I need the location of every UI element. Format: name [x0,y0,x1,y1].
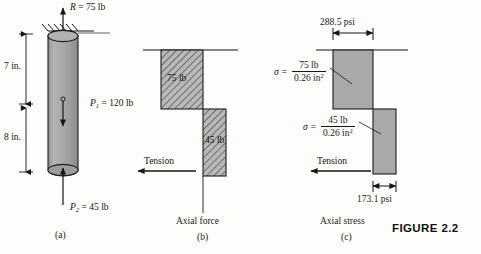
panel-a-caption: (a) [55,230,66,240]
panel-b-graphics [138,50,238,213]
panel-c-graphics [311,28,408,192]
sigma-upper-denominator: 0.26 in2 [292,71,326,84]
axial-stress-block-upper [333,50,373,109]
sigma-lower-numerator: 45 lb [321,115,355,126]
sigma-lower-equals: σ = [303,122,316,132]
reaction-label-R: R = 75 lb [70,3,105,13]
sigma-lower-denominator: 0.26 in2 [321,126,355,139]
sigma-upper-fraction: 75 lb 0.26 in2 [292,60,326,83]
panel-c-axis-label: Axial stress [320,216,365,226]
figure-title: FIGURE 2.2 [392,222,459,234]
axial-stress-block-lower [373,109,396,174]
load-label-P1: P1 = 120 lb [90,99,133,109]
sigma-upper-equals: σ = [274,67,287,77]
axial-force-value-upper: 75 lb [167,74,186,84]
tension-label-b: Tension [144,157,174,167]
stress-label-lower-psi: 173.1 psi [357,194,392,204]
bar-top-ellipse [48,30,78,41]
panel-b-axis-label: Axial force [176,216,219,226]
stress-label-upper-psi: 288.5 psi [320,17,355,27]
load-label-P2: P2 = 45 lb [70,203,109,213]
panel-c-caption: (c) [341,232,352,242]
figure-vector-graphics [0,0,481,254]
tension-label-c: Tension [317,157,347,167]
sigma-lower-fraction: 45 lb 0.26 in2 [321,115,355,138]
dimension-label-8in: 8 in. [4,133,21,143]
panel-b-caption: (b) [197,232,208,242]
axial-force-value-lower: 45 lb [205,136,224,146]
sigma-upper-numerator: 75 lb [292,60,326,71]
figure-2-2-container: R = 75 lb 7 in. 8 in. P1 = 120 lb P2 = 4… [0,0,481,254]
dimension-label-7in: 7 in. [4,62,21,72]
